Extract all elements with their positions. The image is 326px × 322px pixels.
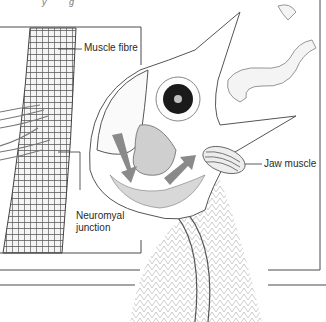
diagram-figure: y g (0, 0, 326, 322)
worm (228, 5, 317, 102)
label-jaw-muscle: Jaw muscle (264, 158, 316, 170)
label-neuromyal-junction-line1: Neuromyal (76, 210, 124, 222)
label-neuromyal-junction-line2: junction (76, 222, 110, 234)
label-muscle-fibre: Muscle fibre (84, 42, 138, 54)
